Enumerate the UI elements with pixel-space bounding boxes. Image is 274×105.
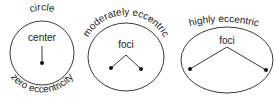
focus-dot-left [109, 66, 113, 70]
foci-label: foci [219, 35, 235, 46]
foci-label: foci [118, 39, 134, 50]
center-label: center [28, 32, 56, 43]
focus-dot-right [264, 68, 268, 72]
foci-pointer-lines [111, 55, 141, 69]
circle-panel: circle center zero eccentricity [9, 1, 75, 94]
moderate-ellipse-shape [88, 23, 164, 91]
center-dot [40, 61, 44, 65]
moderately-eccentric-label: moderately eccentric [80, 6, 171, 39]
focus-dot-left [188, 67, 192, 71]
circle-label: circle [28, 1, 56, 14]
highly-eccentric-label: highly eccentric [188, 13, 260, 28]
high-ellipse-panel: highly eccentric foci [181, 13, 273, 93]
focus-dot-right [139, 67, 143, 71]
eccentricity-diagram: circle center zero eccentricity moderate… [0, 0, 274, 105]
foci-pointer-lines [190, 47, 266, 70]
zero-eccentricity-label: zero eccentricity [9, 71, 75, 94]
moderate-ellipse-panel: moderately eccentric foci [80, 6, 171, 91]
